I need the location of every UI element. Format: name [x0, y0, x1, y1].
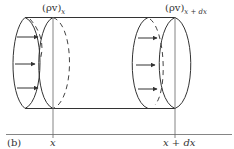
right-face-back-arc: [175, 18, 191, 109]
control-volume-diagram: (ρv)x (ρv)x + dx (b) x x + dx: [0, 0, 234, 149]
flux-in-label: (ρv)x: [42, 2, 65, 16]
flux-out-label: (ρv)x + dx: [165, 2, 207, 16]
panel-label: (b): [7, 137, 21, 148]
right-face-front-arc: [159, 18, 175, 109]
right-outer-arc: [132, 18, 148, 109]
axis-label-x-dx: x + dx: [163, 137, 196, 148]
left-outer-arc: [13, 18, 25, 109]
left-inner-arc: [25, 18, 40, 109]
right-face-hidden-arc: [150, 19, 163, 105]
left-face-hidden-arc: [53, 18, 70, 109]
axis-label-x: x: [50, 137, 56, 148]
left-face-front-arc: [39, 18, 53, 109]
